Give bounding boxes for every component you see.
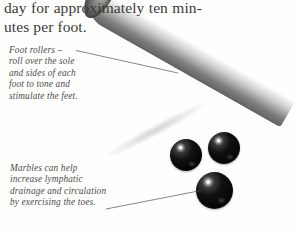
body-line-2: utes per foot. xyxy=(4,17,209,36)
body-word: approximately xyxy=(54,0,145,17)
body-text: day for approximately ten min- utes per … xyxy=(4,0,209,36)
caption-line: stimulate the feet. xyxy=(9,91,78,102)
caption-line: drainage and circulation xyxy=(10,186,106,197)
caption-foot-rollers: Foot rollers – roll over the sole and si… xyxy=(9,45,78,102)
caption-line: Foot rollers – xyxy=(9,45,78,56)
caption-line: by exercising the toes. xyxy=(10,197,106,208)
body-line-1: day for approximately ten min- xyxy=(4,0,202,17)
caption-marbles: Marbles can help increase lymphatic drai… xyxy=(10,163,106,209)
caption-line: foot to tone and xyxy=(9,79,78,90)
marble-right xyxy=(208,132,240,164)
body-word: for xyxy=(31,0,49,17)
caption-line: increase lymphatic xyxy=(10,174,106,185)
caption-line: and sides of each xyxy=(9,68,78,79)
book-page: day for approximately ten min- utes per … xyxy=(0,0,295,230)
marble-left xyxy=(170,139,202,171)
marble-bottom xyxy=(196,172,233,209)
body-word: day xyxy=(4,0,27,17)
caption-line: roll over the sole xyxy=(9,56,78,67)
body-word: min- xyxy=(172,0,202,17)
caption-line: Marbles can help xyxy=(10,163,106,174)
body-word: ten xyxy=(149,0,168,17)
